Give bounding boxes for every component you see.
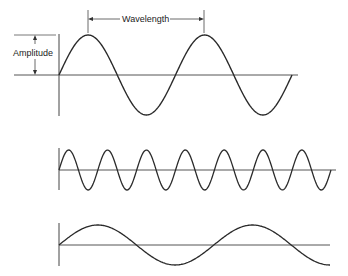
wave-diagram-svg <box>0 0 348 276</box>
wavelength-arrow-right-icon <box>199 17 204 21</box>
wavelength-label: Wavelength <box>122 14 169 24</box>
low-frequency-wave-group <box>59 223 330 266</box>
reference-wave-group <box>14 10 298 116</box>
wave-diagram: Wavelength Amplitude <box>0 0 348 276</box>
amplitude-arrow-up-icon <box>33 35 37 40</box>
wavelength-arrow-left-icon <box>88 17 93 21</box>
high-frequency-wave-group <box>59 148 336 190</box>
amplitude-label: Amplitude <box>13 48 53 58</box>
amplitude-arrow-down-icon <box>33 70 37 75</box>
